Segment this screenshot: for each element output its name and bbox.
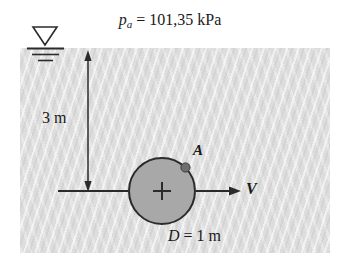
point-a-label: A bbox=[193, 143, 203, 158]
atmospheric-pressure-label: pa = 101,35 kPa bbox=[0, 12, 340, 30]
pressure-subscript: a bbox=[127, 18, 133, 30]
diameter-equals: = bbox=[184, 227, 193, 244]
velocity-arrowhead bbox=[229, 186, 241, 195]
velocity-label: V bbox=[246, 181, 257, 197]
pressure-variable: p bbox=[119, 11, 127, 28]
diameter-label: D = 1 m bbox=[168, 228, 221, 244]
depth-label: 3 m bbox=[42, 110, 66, 126]
pressure-unit: kPa bbox=[197, 11, 221, 28]
pressure-value: 101,35 bbox=[149, 11, 193, 28]
diameter-unit: m bbox=[209, 227, 221, 244]
depth-arrowhead-up bbox=[84, 50, 91, 61]
diameter-value: 1 bbox=[197, 227, 205, 244]
figure-canvas: pa = 101,35 kPa 3 m A V D = 1 m bbox=[0, 0, 340, 267]
point-a-marker bbox=[181, 163, 190, 172]
pressure-equals: = bbox=[136, 11, 145, 28]
diameter-variable: D bbox=[168, 227, 180, 244]
